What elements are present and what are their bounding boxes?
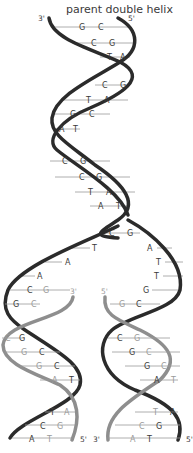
svg-text:G: G [109, 39, 115, 48]
svg-text:A: A [106, 188, 112, 197]
svg-text:A: A [98, 202, 104, 211]
svg-text:T: T [153, 272, 159, 281]
svg-text:T: T [115, 202, 121, 211]
svg-text:G: G [120, 81, 126, 90]
svg-text:C: C [102, 81, 108, 90]
svg-text:G: G [21, 348, 27, 357]
svg-text:G: G [13, 300, 19, 309]
svg-text:T: T [91, 244, 97, 253]
right-daughter-3prime-label: 3' [93, 435, 100, 444]
svg-text:C: C [146, 348, 152, 357]
diagram-title: parent double helix [66, 3, 173, 16]
svg-text:G: G [79, 23, 85, 32]
svg-text:G: G [156, 422, 162, 431]
left-daughter-5prime-label: 5' [80, 435, 87, 444]
right-new-5prime-label: 5' [101, 287, 108, 296]
svg-text:G: G [70, 110, 76, 119]
svg-text:C: C [161, 362, 167, 371]
svg-text:A: A [65, 258, 71, 267]
svg-text:C: C [79, 173, 85, 182]
svg-text:A: A [120, 53, 126, 62]
svg-text:A: A [29, 435, 35, 444]
parent-5prime-label: 5' [128, 14, 135, 23]
svg-text:T: T [87, 188, 93, 197]
svg-text:A: A [104, 96, 110, 105]
svg-text:G: G [80, 157, 86, 166]
svg-text:C: C [136, 300, 142, 309]
svg-text:A: A [59, 125, 65, 134]
svg-text:G: G [143, 286, 149, 295]
left-new-3prime-label: 3' [70, 287, 77, 296]
svg-text:C: C [89, 110, 95, 119]
parent-3prime-label: 3' [38, 14, 45, 23]
svg-text:T: T [49, 408, 55, 417]
svg-text:A: A [130, 435, 136, 444]
svg-text:G: G [19, 334, 25, 343]
svg-text:A: A [147, 244, 153, 253]
svg-text:C: C [54, 362, 60, 371]
svg-text:G: G [127, 229, 133, 238]
svg-text:C: C [31, 300, 37, 309]
svg-text:A: A [37, 272, 43, 281]
svg-text:T: T [106, 53, 112, 62]
svg-text:G: G [129, 348, 135, 357]
svg-text:A: A [170, 408, 176, 417]
fork-region: T A A A T T G [5, 220, 183, 440]
svg-text:A: A [52, 376, 58, 385]
svg-text:T: T [146, 435, 152, 444]
svg-text:C: C [5, 334, 11, 343]
svg-text:C: C [91, 39, 97, 48]
svg-text:A: A [64, 408, 70, 417]
svg-text:C: C [40, 422, 46, 431]
svg-text:G: G [43, 286, 49, 295]
svg-text:C: C [39, 348, 45, 357]
svg-text:G: G [96, 173, 102, 182]
svg-text:T: T [72, 125, 78, 134]
fork-rungs [18, 248, 183, 290]
svg-text:A: A [154, 376, 160, 385]
svg-text:C: C [62, 157, 68, 166]
svg-text:C: C [98, 23, 104, 32]
fork-bases: T A A A T T G [37, 244, 161, 295]
svg-text:G: G [119, 300, 125, 309]
svg-text:G: G [36, 362, 42, 371]
parent-helix: 3' 5' GC CG TA CG TA GC AT CG CG TA AT C… [38, 14, 140, 238]
svg-text:T: T [152, 408, 158, 417]
svg-text:T: T [85, 96, 91, 105]
dna-replication-diagram: parent double helix 3' 5' GC CG TA CG TA [0, 0, 193, 453]
svg-text:G: G [144, 362, 150, 371]
svg-text:C: C [139, 422, 145, 431]
left-template-strand [5, 226, 118, 438]
svg-text:C: C [27, 286, 33, 295]
svg-text:G: G [57, 422, 63, 431]
right-daughter-5prime-label: 5' [186, 435, 193, 444]
svg-text:C: C [117, 334, 123, 343]
svg-text:T: T [155, 258, 161, 267]
svg-text:T: T [46, 435, 52, 444]
svg-text:T: T [170, 376, 176, 385]
svg-text:G: G [134, 334, 140, 343]
svg-text:T: T [68, 376, 74, 385]
